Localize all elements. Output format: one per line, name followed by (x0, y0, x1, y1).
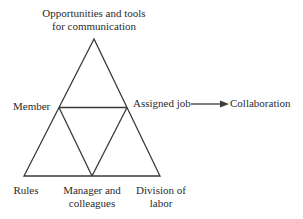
top-node-label: Opportunities and tools for communicatio… (14, 7, 174, 32)
bottom-right-node-label: Division of labor (121, 184, 201, 209)
left-node-label: Member (13, 100, 50, 113)
bottom-left-node-label: Rules (0, 184, 52, 197)
right-node-label: Assigned job (133, 97, 191, 110)
activity-triangle-diagram: Opportunities and tools for communicatio… (0, 0, 303, 219)
inner-left-line (59, 108, 92, 177)
arrow-right-icon (191, 101, 229, 108)
inner-right-line (92, 108, 127, 177)
outcome-node-label: Collaboration (230, 97, 291, 110)
bottom-center-node-label: Manager and colleagues (52, 184, 132, 209)
